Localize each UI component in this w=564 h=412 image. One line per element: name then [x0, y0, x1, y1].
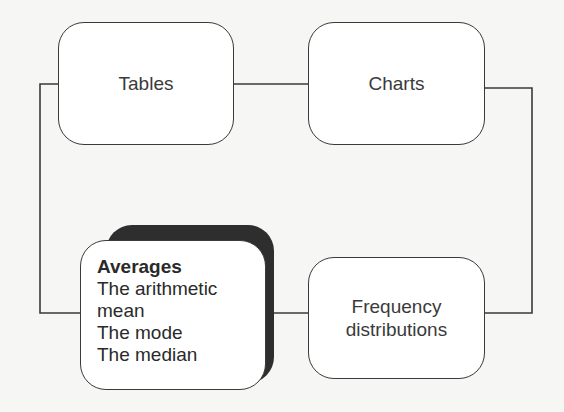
node-averages-item: The mode [97, 322, 217, 344]
node-averages-item: The median [97, 344, 217, 366]
node-frequency-label-line2: distributions [346, 318, 447, 341]
node-frequency-label-line1: Frequency [352, 295, 442, 318]
node-averages-item: The arithmetic [97, 278, 217, 300]
node-tables: Tables [58, 22, 234, 145]
node-charts: Charts [308, 22, 485, 145]
node-frequency-distributions: Frequency distributions [308, 257, 485, 379]
node-averages-item: mean [97, 300, 217, 322]
node-averages: Averages The arithmetic mean The mode Th… [80, 240, 266, 390]
connector-charts-frequency [484, 88, 532, 313]
node-charts-label: Charts [369, 72, 425, 95]
node-tables-label: Tables [119, 72, 174, 95]
node-averages-title: Averages [97, 256, 217, 278]
